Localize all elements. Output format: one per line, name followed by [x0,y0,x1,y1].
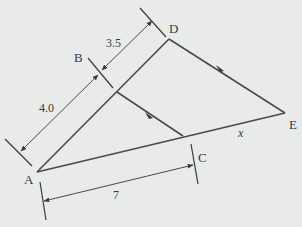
tick-D [140,8,166,37]
triangle-diagram: A B C D E 3.5 4.0 7 x [0,0,302,227]
segment-BC [117,92,183,136]
label-point-B: B [74,50,83,65]
label-BD-length: 3.5 [106,36,121,50]
tick-C [191,144,198,184]
label-point-D: D [169,21,178,36]
side-AD [37,39,169,172]
label-CE-length: x [237,126,244,140]
tick-A-left [5,139,32,166]
label-AC-length: 7 [113,188,119,202]
label-point-E: E [289,117,297,132]
parallel-arrow-DE [216,65,224,72]
label-AB-length: 4.0 [39,101,54,115]
label-point-A: A [24,172,34,187]
label-point-C: C [198,150,207,165]
dimension-line-AB [21,75,98,151]
side-DE [169,39,285,113]
